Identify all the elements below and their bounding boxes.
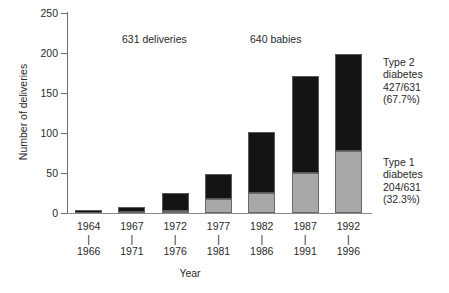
plot-area (67, 13, 370, 213)
x-axis-label-end-year: 1996 (320, 245, 376, 258)
x-axis-label-start-year: 1992 (337, 220, 360, 232)
side-annotation-line: diabetes (383, 68, 423, 80)
bar-column (118, 207, 145, 213)
side-annotation-line: 427/631 (383, 81, 423, 93)
x-axis-label: 1992|1996 (320, 220, 376, 258)
x-axis-label-dash: | (320, 233, 376, 245)
bar-segment-type-2-diabetes (205, 174, 232, 199)
x-axis-label-start-year: 1964 (77, 220, 100, 232)
bar-column (248, 132, 275, 213)
y-axis-title: Number of deliveries (17, 42, 29, 182)
bar-segment-type-1-diabetes (205, 199, 232, 213)
bar-segment-type-2-diabetes (162, 193, 189, 211)
bar-segment-type-2-diabetes (248, 132, 275, 193)
type-1-label: Type 1diabetes204/631(32.3%) (383, 156, 423, 206)
bar-column (292, 76, 319, 213)
bar-segment-type-2-diabetes (118, 207, 145, 212)
y-axis-tick (61, 213, 67, 214)
x-axis-label-start-year: 1982 (250, 220, 273, 232)
x-axis-label-start-year: 1972 (164, 220, 187, 232)
y-axis-tick-label: 150 (40, 88, 58, 99)
y-axis-tick-label: 0 (52, 208, 58, 219)
side-annotation-line: (67.7%) (383, 93, 423, 105)
y-axis-tick-label: 100 (40, 128, 58, 139)
y-axis-tick-label: 200 (40, 48, 58, 59)
type-2-label: Type 2diabetes427/631(67.7%) (383, 56, 423, 106)
x-axis-label-start-year: 1977 (207, 220, 230, 232)
side-annotation-line: Type 1 (383, 156, 423, 168)
bar-column (205, 174, 232, 213)
side-annotation-line: 204/631 (383, 181, 423, 193)
side-annotation-line: diabetes (383, 168, 423, 180)
side-annotation-line: Type 2 (383, 56, 423, 68)
stacked-bar-chart-figure: 050100150200250 Number of deliveries 196… (0, 0, 449, 293)
side-annotation-line: (32.3%) (383, 193, 423, 205)
x-axis-label-start-year: 1967 (120, 220, 143, 232)
bar-segment-type-2-diabetes (335, 54, 362, 152)
bar-segment-type-1-diabetes (162, 211, 189, 213)
bar-segment-type-2-diabetes (292, 76, 319, 173)
bar-segment-type-1-diabetes (248, 193, 275, 213)
bar-column (335, 54, 362, 213)
bar-column (75, 210, 102, 213)
bar-column (162, 193, 189, 213)
y-axis-tick-label: 50 (46, 168, 58, 179)
bar-segment-type-1-diabetes (292, 173, 319, 213)
babies-note: 640 babies (250, 33, 301, 45)
x-axis-line (67, 213, 372, 214)
deliveries-note: 631 deliveries (122, 33, 187, 45)
x-axis-title: Year (0, 267, 380, 279)
y-axis-tick-label: 250 (40, 8, 58, 19)
x-axis-label-start-year: 1987 (293, 220, 316, 232)
bar-segment-type-1-diabetes (335, 151, 362, 213)
bar-segment-type-2-diabetes (75, 210, 102, 213)
